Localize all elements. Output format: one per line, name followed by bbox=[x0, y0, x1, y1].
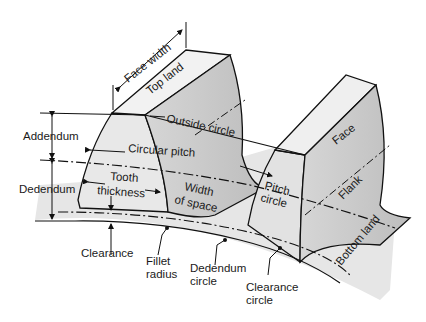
label-addendum: Addendum bbox=[23, 130, 79, 142]
label-fillet: Fillet bbox=[146, 255, 171, 267]
gear-tooth-diagram: Face width Top land Outside circle Adden… bbox=[0, 0, 426, 322]
label-tooth: Tooth bbox=[110, 170, 139, 184]
label-clearance: Clearance bbox=[81, 247, 133, 259]
label-clearance-circle-1: Clearance bbox=[246, 281, 298, 293]
label-dedendum: Dedendum bbox=[19, 183, 75, 195]
label-clearance-circle-2: circle bbox=[246, 294, 273, 306]
label-dedendum-circle-2: circle bbox=[190, 275, 217, 287]
label-radius: radius bbox=[146, 268, 178, 280]
label-dedendum-circle-1: Dedendum bbox=[190, 262, 246, 274]
